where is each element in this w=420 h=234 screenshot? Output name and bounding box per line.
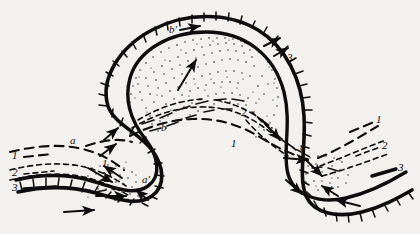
label-1-center: 1 [231,138,237,149]
legend-left-label-2: 2 [12,167,18,178]
figure-canvas: 1 2 3 1 2 3 b' 3 2 b 1 a 1 2 a' c c' [0,0,420,234]
arrow-top-b-prime [180,26,200,30]
legend-right-label-1: 1 [376,114,382,125]
label-b-center: b [161,122,167,133]
label-1-inner: 1 [102,158,108,169]
label-b-prime: b' [169,24,177,35]
outer-hachured-front [18,17,412,215]
label-c-prime: c' [325,184,332,195]
arrow-bottom-right-back [336,200,360,206]
arrow-left-up-2 [104,128,118,140]
label-c: c [300,142,305,153]
arrow-core-up [178,60,196,90]
label-a-prime: a' [142,174,150,185]
arrow-left-up [100,144,116,156]
legend-right-label-3: 3 [398,162,404,173]
arrow-bottom-right-in [286,180,302,194]
legend-right-label-2: 2 [382,140,388,151]
label-3-top-right: 3 [287,52,293,63]
label-2-center: 2 [241,107,247,118]
label-a-left: a [70,135,76,146]
isolines-style-2 [10,99,388,195]
legend-left-label-3: 3 [12,182,18,193]
legend-left-label-1: 1 [12,150,18,161]
diagram-svg [0,0,420,234]
label-2-inner: 2 [104,173,110,184]
arrow-a-prime [136,190,148,200]
isolines-style-1 [10,119,378,170]
arrow-bottom-left [64,210,94,212]
